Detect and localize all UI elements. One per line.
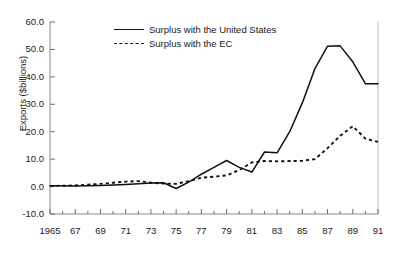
chart-container: Exports ($billions) 60.050.040.030.020.0… [0, 0, 411, 260]
chart-legend: Surplus with the United States Surplus w… [114, 23, 276, 51]
legend-label-ec: Surplus with the EC [149, 37, 232, 50]
legend-item-us: Surplus with the United States [114, 23, 276, 36]
legend-label-us: Surplus with the United States [149, 23, 276, 36]
series-line-ec [50, 126, 378, 186]
legend-key-dotted-line-icon [114, 39, 144, 48]
legend-key-solid-line-icon [114, 25, 144, 34]
legend-item-ec: Surplus with the EC [114, 37, 276, 50]
series-line-us [50, 46, 378, 189]
